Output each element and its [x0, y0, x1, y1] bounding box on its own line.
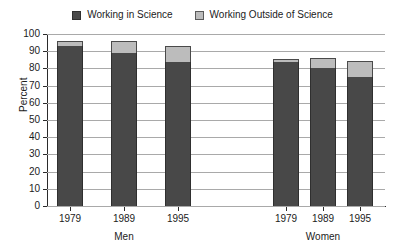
bar-stack-1 — [111, 41, 137, 206]
bar-chart: Working in Science Working Outside of Sc… — [0, 0, 405, 252]
y-tick-label-10: 10 — [14, 184, 40, 194]
x-tick-0 — [70, 207, 74, 211]
x-tick-mark-1 — [124, 207, 125, 211]
bar-segment-outside-science-5 — [347, 61, 373, 77]
y-tick-label-30: 30 — [14, 149, 40, 159]
legend-label-working-in-science: Working in Science — [87, 9, 172, 21]
bar-segment-in-science-0 — [57, 46, 83, 206]
bar-segment-in-science-3 — [273, 62, 299, 206]
legend-entry-working-outside-of-science: Working Outside of Science — [195, 9, 333, 21]
y-tick-label-0: 0 — [14, 201, 40, 211]
bar-group-2 — [165, 34, 191, 206]
x-tick-1 — [124, 207, 128, 211]
bar-segment-in-science-2 — [165, 62, 191, 206]
x-tick-label-0: 1979 — [47, 213, 93, 224]
y-tick-label-70: 70 — [14, 81, 40, 91]
y-tick-label-50: 50 — [14, 115, 40, 125]
bar-segment-outside-science-4 — [310, 58, 336, 68]
bar-segment-outside-science-1 — [111, 41, 137, 53]
y-tick-label-100: 100 — [14, 29, 40, 39]
bar-segment-in-science-5 — [347, 77, 373, 206]
group-label-women: Women — [283, 231, 363, 242]
y-tick-label-20: 20 — [14, 167, 40, 177]
bar-group-5 — [347, 34, 373, 206]
gridline-0 — [47, 206, 385, 207]
chart-legend: Working in Science Working Outside of Sc… — [0, 9, 405, 21]
bar-segment-in-science-4 — [310, 68, 336, 206]
x-tick-3 — [286, 207, 290, 211]
x-tick-label-2: 1995 — [155, 213, 201, 224]
y-tick-label-90: 90 — [14, 46, 40, 56]
bar-group-1 — [111, 34, 137, 206]
x-tick-mark-2 — [178, 207, 179, 211]
bar-group-4 — [310, 34, 336, 206]
legend-label-working-outside-of-science: Working Outside of Science — [210, 9, 333, 21]
x-tick-label-1: 1989 — [101, 213, 147, 224]
bar-stack-3 — [273, 59, 299, 206]
plot-area: Percent — [47, 34, 385, 206]
x-tick-4 — [323, 207, 327, 211]
bar-stack-0 — [57, 41, 83, 206]
x-tick-label-5: 1995 — [337, 213, 383, 224]
bar-group-0 — [57, 34, 83, 206]
bar-series-layer — [47, 34, 385, 206]
bar-group-3 — [273, 34, 299, 206]
legend-entry-working-in-science: Working in Science — [72, 9, 172, 21]
y-tick-label-40: 40 — [14, 132, 40, 142]
x-tick-mark-3 — [286, 207, 287, 211]
bar-stack-4 — [310, 58, 336, 206]
bar-segment-outside-science-2 — [165, 46, 191, 61]
legend-swatch-light-icon — [195, 11, 204, 20]
bar-stack-2 — [165, 46, 191, 206]
y-tick-label-60: 60 — [14, 98, 40, 108]
legend-swatch-dark-icon — [72, 11, 81, 20]
x-tick-2 — [178, 207, 182, 211]
x-tick-mark-4 — [323, 207, 324, 211]
x-tick-5 — [360, 207, 364, 211]
group-label-men: Men — [84, 231, 164, 242]
bar-segment-in-science-1 — [111, 53, 137, 206]
y-tick-0 — [43, 206, 47, 207]
y-tick-label-80: 80 — [14, 63, 40, 73]
bar-stack-5 — [347, 61, 373, 206]
x-tick-mark-5 — [360, 207, 361, 211]
x-tick-mark-0 — [70, 207, 71, 211]
